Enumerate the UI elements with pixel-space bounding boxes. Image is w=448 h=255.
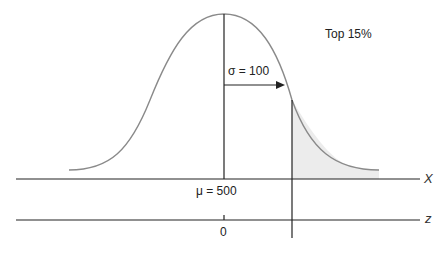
mu-label: μ = 500: [196, 184, 237, 198]
shaded-tail-region: [292, 100, 379, 179]
z-axis-label: z: [425, 211, 432, 226]
sigma-arrow-head-icon: [276, 81, 285, 89]
normal-distribution-diagram: [0, 0, 448, 255]
z-zero-label: 0: [220, 225, 227, 239]
top-percent-annotation: Top 15%: [325, 27, 372, 41]
sigma-label: σ = 100: [228, 64, 269, 78]
x-axis-label: X: [424, 171, 433, 186]
